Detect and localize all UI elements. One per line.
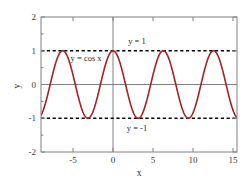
annotation-lower-bound: y = -1 <box>127 123 147 133</box>
y-tick-label: 2 <box>32 12 37 22</box>
figure-background <box>0 0 250 181</box>
x-tick-label: 10 <box>189 155 199 165</box>
x-tick-label: 15 <box>229 155 239 165</box>
annotation-cosine-curve: y = cos x <box>71 53 103 63</box>
y-tick-label: -1 <box>29 113 37 123</box>
y-axis-title: y <box>12 83 22 88</box>
annotation-upper-bound: y = 1 <box>128 36 146 46</box>
y-tick-label: -2 <box>29 147 37 157</box>
y-tick-label: 0 <box>32 80 37 90</box>
y-tick-label: 1 <box>32 46 37 56</box>
x-tick-label: 5 <box>151 155 156 165</box>
x-axis-title: x <box>137 168 142 178</box>
cosine-plot: -5051015 -2-1012 x y y = 1y = cos xy = -… <box>0 0 250 181</box>
chart-figure: -5051015 -2-1012 x y y = 1y = cos xy = -… <box>0 0 250 181</box>
x-tick-label: -5 <box>69 155 77 165</box>
x-tick-label: 0 <box>111 155 116 165</box>
